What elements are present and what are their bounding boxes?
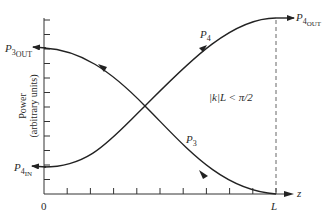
p3-out-arrow [33,47,46,48]
p4-in-arrow [32,166,46,167]
x-variable-label: z [296,187,302,199]
p4-in-label: P4IN [13,161,32,178]
p3-direction-arrow-icon-2 [199,170,208,179]
p3-label: P3 [185,133,197,148]
x-axis-arrow-icon [284,191,294,197]
p3-curve [44,48,276,194]
y-axis-label-line2: (arbitrary units) [28,74,40,137]
x-axis-ticks [67,188,276,194]
x-origin-label: 0 [41,200,47,212]
condition-label: |k|L < π/2 [209,91,253,103]
p3-out-label: P3OUT [4,42,32,59]
p4-out-label: P4OUT [295,11,322,28]
p4-label: P4 [199,28,211,43]
x-end-label: L [270,200,277,212]
y-axis-ticks [44,20,50,180]
y-axis-label-line1: Power [17,93,28,119]
power-diagram: Power (arbitrary units) 0 L z |k|L < π/2… [0,0,331,216]
